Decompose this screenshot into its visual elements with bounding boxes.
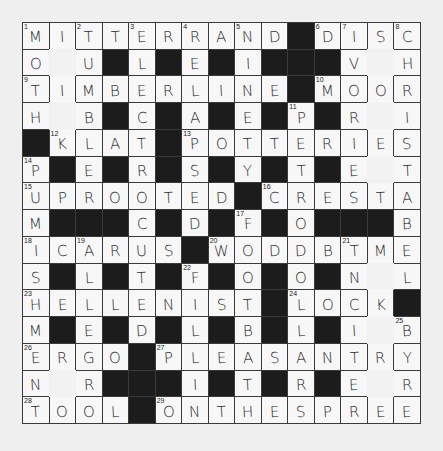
grid-cell[interactable]: N [23, 371, 49, 397]
grid-cell[interactable]: S [23, 264, 49, 290]
grid-cell[interactable]: R [394, 76, 420, 102]
grid-cell[interactable]: 2T [76, 23, 102, 49]
grid-cell[interactable]: 13P [182, 130, 208, 156]
grid-cell[interactable]: R [50, 344, 76, 370]
grid-cell[interactable]: 29O [156, 397, 182, 423]
grid-cell[interactable]: D [262, 237, 288, 263]
grid-cell[interactable]: L [103, 397, 129, 423]
grid-cell[interactable]: T [103, 23, 129, 49]
grid-cell[interactable]: 16C [262, 183, 288, 209]
grid-cell[interactable]: E [368, 397, 394, 423]
grid-cell[interactable]: R [76, 371, 102, 397]
grid-cell[interactable]: O [50, 397, 76, 423]
grid-cell[interactable]: V [341, 50, 367, 76]
grid-cell[interactable]: A [103, 130, 129, 156]
grid-cell[interactable]: T [235, 130, 261, 156]
grid-cell[interactable]: A [182, 103, 208, 129]
grid-cell[interactable]: D [209, 183, 235, 209]
grid-cell[interactable]: E [394, 237, 420, 263]
grid-cell[interactable]: E [209, 344, 235, 370]
grid-cell[interactable]: O [288, 264, 314, 290]
grid-cell[interactable]: N [156, 290, 182, 316]
grid-cell[interactable]: O [341, 76, 367, 102]
grid-cell[interactable]: B [235, 317, 261, 343]
grid-cell[interactable]: I [50, 76, 76, 102]
grid-cell[interactable]: T [235, 290, 261, 316]
grid-cell[interactable]: R [76, 183, 102, 209]
grid-cell[interactable]: O [209, 130, 235, 156]
grid-cell[interactable]: I [182, 371, 208, 397]
grid-cell[interactable]: 17F [235, 210, 261, 236]
grid-cell[interactable]: E [394, 397, 420, 423]
grid-cell[interactable]: 3E [129, 23, 155, 49]
grid-cell[interactable]: 24L [288, 290, 314, 316]
grid-cell[interactable]: O [368, 76, 394, 102]
grid-cell[interactable]: I [209, 76, 235, 102]
grid-cell[interactable]: A [394, 183, 420, 209]
grid-cell[interactable]: O [103, 183, 129, 209]
grid-cell[interactable]: 12K [50, 130, 76, 156]
grid-cell[interactable]: Y [394, 344, 420, 370]
grid-cell[interactable]: O [23, 50, 49, 76]
grid-cell[interactable]: R [394, 371, 420, 397]
grid-cell[interactable]: N [315, 344, 341, 370]
grid-cell[interactable]: E [129, 76, 155, 102]
grid-cell[interactable]: E [262, 397, 288, 423]
grid-cell[interactable]: K [368, 290, 394, 316]
grid-cell[interactable]: M [23, 317, 49, 343]
grid-cell[interactable]: R [341, 103, 367, 129]
grid-cell[interactable]: 4R [182, 23, 208, 49]
grid-cell[interactable]: A [209, 23, 235, 49]
grid-cell[interactable]: 7I [341, 23, 367, 49]
grid-cell[interactable]: T [209, 397, 235, 423]
grid-cell[interactable]: 21T [341, 237, 367, 263]
grid-cell[interactable]: 8C [394, 23, 420, 49]
grid-cell[interactable]: R [288, 371, 314, 397]
grid-cell[interactable]: H [235, 397, 261, 423]
grid-cell[interactable]: T [341, 344, 367, 370]
grid-cell[interactable]: E [235, 103, 261, 129]
grid-cell[interactable]: 11P [288, 103, 314, 129]
grid-cell[interactable]: H [394, 50, 420, 76]
grid-cell[interactable]: M [368, 237, 394, 263]
grid-cell[interactable]: L [103, 290, 129, 316]
grid-cell[interactable]: 1M [23, 23, 49, 49]
grid-cell[interactable]: A [235, 344, 261, 370]
grid-cell[interactable]: D [262, 23, 288, 49]
grid-cell[interactable]: L [76, 130, 102, 156]
grid-cell[interactable]: I [50, 23, 76, 49]
grid-cell[interactable]: E [76, 157, 102, 183]
grid-cell[interactable]: D [182, 210, 208, 236]
grid-cell[interactable]: O [103, 344, 129, 370]
grid-cell[interactable]: B [394, 210, 420, 236]
grid-cell[interactable]: C [129, 103, 155, 129]
grid-cell[interactable]: G [76, 344, 102, 370]
grid-cell[interactable]: O [76, 397, 102, 423]
grid-cell[interactable]: I [341, 130, 367, 156]
grid-cell[interactable]: 10M [315, 76, 341, 102]
grid-cell[interactable]: P [50, 183, 76, 209]
grid-cell[interactable]: T [368, 183, 394, 209]
grid-cell[interactable]: C [341, 290, 367, 316]
grid-cell[interactable]: T [262, 130, 288, 156]
grid-cell[interactable]: O [288, 210, 314, 236]
grid-cell[interactable]: I [235, 50, 261, 76]
grid-cell[interactable]: 15U [23, 183, 49, 209]
grid-cell[interactable]: I [341, 317, 367, 343]
grid-cell[interactable]: E [76, 317, 102, 343]
grid-cell[interactable]: O [235, 237, 261, 263]
grid-cell[interactable]: L [129, 50, 155, 76]
grid-cell[interactable]: C [50, 237, 76, 263]
grid-cell[interactable]: S [394, 130, 420, 156]
grid-cell[interactable]: R [156, 76, 182, 102]
grid-cell[interactable]: T [394, 157, 420, 183]
grid-cell[interactable]: E [315, 183, 341, 209]
grid-cell[interactable]: E [341, 371, 367, 397]
grid-cell[interactable]: E [182, 50, 208, 76]
grid-cell[interactable]: N [341, 264, 367, 290]
grid-cell[interactable]: S [209, 290, 235, 316]
grid-cell[interactable]: 14P [23, 157, 49, 183]
grid-cell[interactable]: 5N [235, 23, 261, 49]
grid-cell[interactable]: D [288, 237, 314, 263]
grid-cell[interactable]: L [182, 317, 208, 343]
